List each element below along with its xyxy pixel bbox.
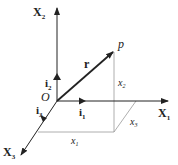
i1-label: i1 [79, 106, 86, 121]
point-p-label: p [117, 37, 124, 51]
i1-arrowhead-icon [79, 98, 86, 105]
x2-component-label: x2 [117, 77, 125, 89]
i2-arrowhead-icon [53, 73, 61, 80]
i3-label: i3 [36, 104, 43, 119]
coordinate-diagram: X2 X1 X3 i2 i1 i3 O p r x2 x3 x1 [0, 0, 178, 165]
origin-label: O [41, 90, 50, 104]
x3-axis-label: X3 [3, 145, 16, 161]
vector-r-label: r [84, 57, 90, 71]
x3-component-label: x3 [129, 116, 137, 128]
x1-axis-label: X1 [158, 106, 171, 122]
x1-component-label: x1 [70, 135, 78, 147]
x2-axis-label: X2 [33, 5, 46, 21]
